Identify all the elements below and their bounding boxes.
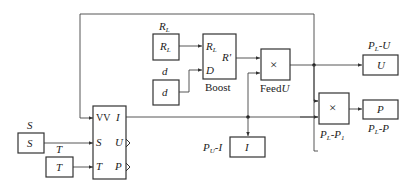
d-source-inner: d xyxy=(162,86,168,98)
boost-block[interactable]: RL D R' Boost xyxy=(203,34,236,93)
t-source-label: T xyxy=(56,143,63,155)
p-mult-caption: PL-P1 xyxy=(319,128,345,142)
s-source-inner: S xyxy=(27,137,33,149)
boost-pv-block-diagram: RL RL d d RL D R' Boost × FeedU U PL-U ×… xyxy=(0,0,413,191)
wire-u-to-pmult xyxy=(314,65,318,101)
feed-multiply-symbol: × xyxy=(270,57,277,72)
pv-port-u: U xyxy=(115,136,124,148)
feed-caption: FeedU xyxy=(260,82,290,94)
u-scope-block[interactable]: U PL-U xyxy=(363,39,398,75)
p-multiply-symbol: × xyxy=(329,100,336,115)
boost-port-out: R' xyxy=(221,51,232,63)
p-scope-label: PL-P xyxy=(367,122,389,136)
wire-i-to-feed xyxy=(248,73,260,117)
p-scope-block[interactable]: P PL-P xyxy=(363,100,398,136)
wire-u-to-pmult-stub xyxy=(314,65,318,151)
t-source-inner: T xyxy=(56,161,63,173)
u-scope-label: PL-U xyxy=(367,39,391,53)
rl-source-block[interactable]: RL RL xyxy=(153,20,179,60)
p-multiplier-block[interactable]: × PL-P1 xyxy=(319,93,349,142)
s-source-block[interactable]: S S xyxy=(18,119,44,153)
i-scope-block[interactable]: I PU-I xyxy=(202,137,265,157)
d-source-label: d xyxy=(162,65,168,77)
s-source-label: S xyxy=(27,119,33,131)
pv-port-vv: VV xyxy=(96,112,111,123)
u-scope-inner: U xyxy=(377,59,386,71)
i-scope-label: PU-I xyxy=(202,141,223,155)
pv-port-s: S xyxy=(96,136,102,148)
pv-module-block[interactable]: VV S T I U P xyxy=(93,106,130,179)
pv-port-t: T xyxy=(96,160,103,172)
t-source-block[interactable]: T T xyxy=(46,143,73,177)
p-scope-inner: P xyxy=(376,103,384,115)
d-source-block[interactable]: d d xyxy=(153,65,179,105)
wire-d-to-boost xyxy=(179,70,202,92)
boost-port-d: D xyxy=(205,64,214,76)
boost-caption: Boost xyxy=(205,81,231,93)
rl-source-label: RL xyxy=(158,20,170,34)
pv-port-p: P xyxy=(114,160,122,172)
feed-multiplier-block[interactable]: × FeedU xyxy=(260,49,290,94)
